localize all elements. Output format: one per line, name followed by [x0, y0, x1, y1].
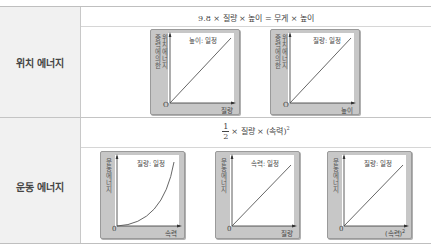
graph-origin: O — [163, 101, 169, 109]
graph-potential-vs-mass: 중력에의한 위치에너지 높이: 일정 O 질량 — [150, 29, 240, 115]
energy-table: 위치 에너지 9.8 × 질량 × 높이 = 무게 × 높이 중력에의한 위치에… — [0, 6, 431, 244]
x-axis-label: 질량 — [221, 105, 233, 115]
kinetic-energy-formula: 1 2 × 질량 × (속력)2 — [81, 122, 431, 141]
potential-energy-formula: 9.8 × 질량 × 높이 = 무게 × 높이 — [81, 12, 431, 23]
graph-kinetic-vs-mass: 운동에너지 속력: 일정 0 질량 — [215, 151, 300, 239]
label-column — [0, 7, 80, 243]
graph-origin: 0 — [227, 225, 231, 233]
graph-kinetic-vs-speed-squared: 운동에너지 질량: 일정 0 (속력)2 — [327, 151, 412, 239]
graph-potential-vs-height: 중력에의한 위치에너지 질량: 일정 O 높이 — [270, 29, 360, 115]
graph-condition: 질량: 일정 — [364, 158, 392, 168]
fraction-one-half: 1 2 — [222, 122, 229, 141]
graph-origin: O — [283, 101, 289, 109]
graph-origin: 0 — [112, 225, 116, 233]
graph-condition: 속력: 일정 — [251, 158, 279, 168]
graph-condition: 질량: 일정 — [313, 35, 341, 45]
x-axis-label: 질량 — [281, 228, 293, 238]
formula-divider — [81, 147, 431, 148]
graph-condition: 질량: 일정 — [137, 158, 165, 168]
graph-kinetic-vs-speed: 운동에너지 질량: 일정 0 속력 — [100, 151, 185, 239]
graph-origin: 0 — [339, 225, 343, 233]
row-label-kinetic-energy: 운동 에너지 — [0, 179, 80, 194]
x-axis-label: 속력 — [165, 228, 177, 238]
formula-divider — [81, 26, 431, 27]
row-label-potential-energy: 위치 에너지 — [0, 55, 80, 70]
row-divider — [0, 117, 431, 118]
x-axis-label: 높이 — [341, 105, 353, 115]
graph-condition: 높이: 일정 — [189, 35, 217, 45]
x-axis-label: (속력)2 — [385, 228, 405, 238]
